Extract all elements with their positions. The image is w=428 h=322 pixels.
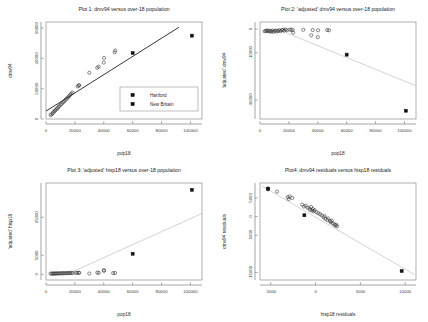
x-tick-label: 20000 [69, 289, 82, 294]
x-tick-label: 10000 [399, 289, 412, 294]
plot-panel-4: Plot4: dmv94 residuals versus hisp18 res… [214, 161, 428, 322]
data-layer [263, 28, 416, 112]
y-tick-label: 60000 [34, 21, 39, 34]
x-tick-label: 0 [45, 128, 48, 133]
data-point-filled [345, 53, 348, 56]
x-tick-label: -5000 [265, 289, 277, 294]
figure-canvas: Plot 1: dmv94 versus over-18 population0… [0, 0, 428, 322]
y-tick-label: -15000 [248, 265, 253, 279]
x-tick-label: 60000 [127, 289, 140, 294]
data-point-filled [131, 252, 134, 255]
series-highlighted-cities [267, 187, 404, 272]
regression-line [72, 213, 202, 272]
data-layer [262, 186, 414, 274]
x-axis-label: pop18 [331, 151, 345, 156]
series-highlighted-cities [345, 53, 407, 112]
chart-plot3: Plot 3: 'adjusted' hisp18 versus over-18… [0, 161, 214, 322]
x-tick-label: 80000 [156, 289, 169, 294]
y-tick-label: 20000 [34, 82, 39, 95]
data-point-filled [400, 270, 403, 273]
y-axis-label: dmv94 [8, 63, 13, 78]
regression-line [262, 186, 414, 274]
y-tick-label: 5000 [248, 193, 253, 203]
data-point-open [301, 203, 304, 206]
x-tick-label: 60000 [341, 128, 354, 133]
data-point-open [113, 271, 116, 274]
x-tick-label: 40000 [98, 128, 111, 133]
legend-label: Hartford [150, 93, 167, 98]
x-tick-label: 60000 [127, 128, 140, 133]
y-tick-label: 0 [248, 27, 253, 30]
data-point-filled [303, 214, 306, 217]
legend-marker [131, 102, 134, 105]
data-point-open [49, 113, 52, 116]
x-axis-label: hisp18 residuals [321, 312, 356, 317]
y-tick-label: -30000 [248, 93, 253, 107]
data-point-open [311, 28, 314, 31]
data-point-open [88, 272, 91, 275]
x-tick-label: 100000 [183, 289, 198, 294]
plot-panel-3: Plot 3: 'adjusted' hisp18 versus over-18… [0, 161, 214, 322]
x-tick-label: 0 [259, 128, 262, 133]
data-layer [49, 188, 202, 275]
data-point-filled [131, 52, 134, 55]
regression-line [286, 33, 416, 86]
x-tick-label: 80000 [370, 128, 383, 133]
data-point-open [310, 34, 313, 37]
data-point-open [316, 36, 319, 39]
data-point-filled [267, 187, 270, 190]
chart-title: Plot 2: 'adjusted' dmv94 versus over-18 … [281, 6, 395, 12]
legend-label: New Britain [150, 102, 174, 107]
legend-box [120, 87, 198, 111]
x-tick-label: 0 [314, 289, 317, 294]
data-point-open [275, 190, 278, 193]
legend: HartfordNew Britain [120, 87, 198, 111]
x-tick-label: 100000 [397, 128, 412, 133]
data-point-open [102, 61, 105, 64]
x-tick-label: 80000 [156, 128, 169, 133]
y-tick-label: 40000 [34, 52, 39, 65]
series-towns [266, 187, 338, 228]
y-axis-label: 'adjusted' dmv94 [222, 52, 227, 88]
y-axis-label: 'adjusted' hisp18 [8, 213, 13, 249]
x-tick-label: 5000 [356, 289, 366, 294]
data-point-open [327, 29, 330, 32]
series-towns [49, 269, 117, 276]
chart-plot2: Plot 2: 'adjusted' dmv94 versus over-18 … [214, 0, 428, 161]
y-tick-label: -10000 [248, 45, 253, 59]
legend-marker [131, 93, 134, 96]
chart-plot4: Plot4: dmv94 residuals versus hisp18 res… [214, 161, 428, 322]
data-point-filled [190, 34, 193, 37]
data-point-open [316, 29, 319, 32]
data-point-open [291, 196, 294, 199]
series-towns [49, 49, 117, 117]
y-axis-label: dmv94 residuals [222, 213, 227, 249]
plot-frame [46, 183, 202, 280]
y-tick-label: 15000 [34, 211, 39, 224]
data-point-open [302, 28, 305, 31]
x-axis-label: pop18 [117, 312, 131, 317]
x-tick-label: 40000 [312, 128, 325, 133]
plot-panel-1: Plot 1: dmv94 versus over-18 population0… [0, 0, 214, 161]
x-tick-label: 20000 [283, 128, 296, 133]
data-point-filled [404, 109, 407, 112]
x-tick-label: 40000 [98, 289, 111, 294]
chart-plot1: Plot 1: dmv94 versus over-18 population0… [0, 0, 214, 161]
y-tick-label: 0 [34, 272, 39, 275]
plot-panel-2: Plot 2: 'adjusted' dmv94 versus over-18 … [214, 0, 428, 161]
chart-title: Plot4: dmv94 residuals versus hisp18 res… [285, 167, 392, 173]
x-tick-label: 20000 [69, 128, 82, 133]
data-point-open [102, 56, 105, 59]
x-tick-label: 0 [45, 289, 48, 294]
y-tick-label: 5000 [34, 250, 39, 260]
y-tick-label: -5000 [248, 229, 253, 241]
plot-frame [260, 183, 416, 280]
data-point-filled [190, 188, 193, 191]
data-point-open [88, 71, 91, 74]
chart-title: Plot 1: dmv94 versus over-18 population [78, 6, 169, 12]
x-axis-label: pop18 [117, 151, 131, 156]
y-tick-label: 0 [248, 215, 253, 218]
plot-frame [260, 22, 416, 119]
chart-title: Plot 3: 'adjusted' hisp18 versus over-18… [67, 167, 181, 173]
y-tick-label: 0 [34, 117, 39, 120]
